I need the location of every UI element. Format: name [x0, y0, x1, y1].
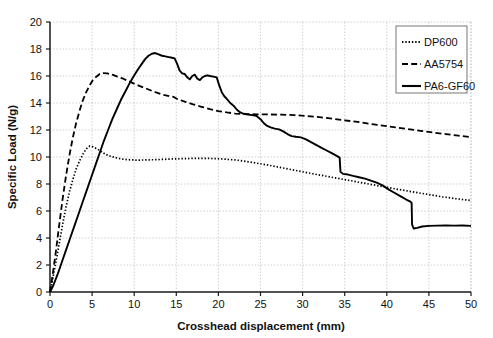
y-tick-label: 16 [30, 70, 42, 82]
x-tick-label: 20 [212, 298, 224, 310]
y-tick-label: 8 [36, 178, 42, 190]
series-line-dp600 [50, 146, 471, 292]
x-tick-label: 25 [254, 298, 266, 310]
line-chart: 0510152025303540455002468101214161820 DP… [0, 0, 493, 338]
x-tick-label: 40 [381, 298, 393, 310]
y-tick-label: 12 [30, 124, 42, 136]
y-tick-label: 0 [36, 286, 42, 298]
chart-legend: DP600AA5754PA6-GF60 [396, 26, 475, 93]
y-tick-label: 10 [30, 151, 42, 163]
legend-label-pa6-gf60: PA6-GF60 [424, 80, 475, 92]
y-tick-label: 18 [30, 43, 42, 55]
y-axis-title: Specific Load (N/g) [6, 105, 18, 209]
legend-label-dp600: DP600 [424, 36, 458, 48]
chart-container: 0510152025303540455002468101214161820 DP… [0, 0, 493, 338]
x-tick-label: 35 [339, 298, 351, 310]
x-tick-label: 0 [47, 298, 53, 310]
x-tick-label: 50 [465, 298, 477, 310]
x-tick-label: 5 [89, 298, 95, 310]
x-tick-label: 15 [170, 298, 182, 310]
legend-label-aa5754: AA5754 [424, 58, 463, 70]
y-tick-label: 14 [30, 97, 42, 109]
y-tick-label: 2 [36, 259, 42, 271]
x-axis-title: Crosshead displacement (mm) [177, 320, 345, 332]
x-tick-label: 30 [296, 298, 308, 310]
x-tick-label: 10 [128, 298, 140, 310]
y-tick-label: 20 [30, 16, 42, 28]
y-tick-label: 4 [36, 232, 42, 244]
x-tick-label: 45 [423, 298, 435, 310]
y-tick-label: 6 [36, 205, 42, 217]
